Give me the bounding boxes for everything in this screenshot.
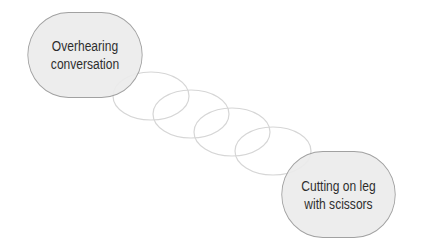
node-label-line: Cutting on leg — [301, 177, 375, 195]
chain-link-2 — [153, 90, 229, 138]
chain-link-3 — [194, 108, 270, 156]
node-cutting-on-leg: Cutting on leg with scissors — [281, 151, 395, 238]
node-overhearing-conversation: Overhearing conversation — [27, 12, 142, 98]
node-label-line: conversation — [51, 55, 119, 73]
node-label-line: with scissors — [301, 195, 375, 213]
node-label-line: Overhearing — [51, 37, 119, 55]
